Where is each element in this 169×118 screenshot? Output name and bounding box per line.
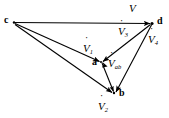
v4-subscript: 4 bbox=[155, 39, 158, 46]
vab-subscript: ab bbox=[115, 63, 122, 70]
vertex-label-c: c bbox=[4, 15, 8, 25]
v1-dot-glyph: V bbox=[83, 43, 90, 54]
vector-line-V bbox=[14, 23, 150, 24]
vector-edges bbox=[14, 23, 152, 93]
vector-label-V4: V4 bbox=[148, 34, 158, 45]
vector-label-V: V bbox=[129, 3, 136, 14]
vertex-label-a: a bbox=[92, 57, 97, 67]
vertex-dot-a bbox=[100, 61, 102, 63]
vector-label-V2: V2 bbox=[98, 101, 108, 112]
vector-label-Vab: Vab bbox=[108, 58, 121, 69]
vector-label-V3: V3 bbox=[118, 26, 128, 37]
v3-dot-glyph: V bbox=[118, 26, 125, 37]
v2-subscript: 2 bbox=[105, 106, 108, 113]
vertex-dot-b bbox=[113, 92, 115, 94]
vector-label-V1: V1 bbox=[83, 43, 93, 54]
v4-dot-glyph: V bbox=[148, 34, 155, 45]
v-dot-glyph: V bbox=[129, 3, 136, 14]
vector-diagram-canvas bbox=[0, 0, 169, 118]
v1-subscript: 1 bbox=[90, 48, 93, 55]
vertex-dot-c bbox=[13, 21, 15, 23]
vector-polygon-diagram: c d a b V V1 V2 V3 V4 Vab bbox=[0, 0, 169, 118]
vab-dot-glyph: V bbox=[108, 58, 115, 69]
v3-subscript: 3 bbox=[125, 31, 128, 38]
vector-line-V2 bbox=[15, 25, 112, 93]
v2-dot-glyph: V bbox=[98, 101, 105, 112]
vertex-label-d: d bbox=[157, 16, 163, 26]
vertex-label-b: b bbox=[119, 88, 125, 98]
